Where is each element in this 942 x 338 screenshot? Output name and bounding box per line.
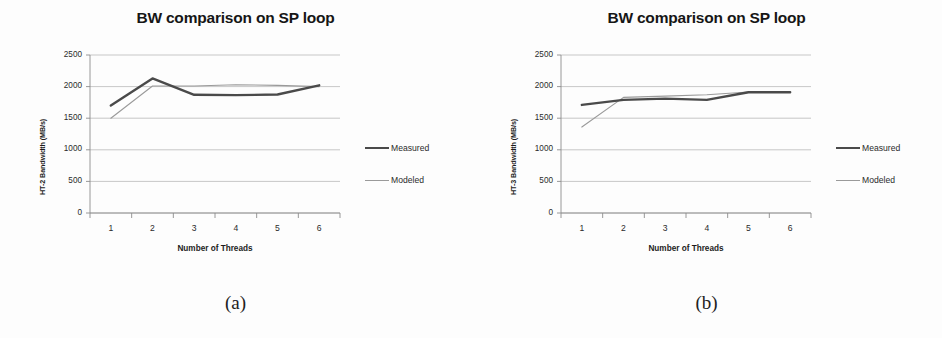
x-tick-label: 1 xyxy=(101,223,121,233)
series-line-modeled xyxy=(111,85,319,118)
y-tick-label: 1500 xyxy=(519,113,553,122)
figure-caption-b: (b) xyxy=(471,292,942,314)
y-tick-label: 0 xyxy=(519,208,553,217)
y-tick-label: 1000 xyxy=(48,144,82,153)
y-tick-label: 2000 xyxy=(48,81,82,90)
x-tick-label: 5 xyxy=(739,223,759,233)
y-tick-label: 1000 xyxy=(519,144,553,153)
chart-a: 05001000150020002500123456Number of Thre… xyxy=(0,0,471,338)
legend-item-modeled[interactable]: Modeled xyxy=(836,171,900,189)
series-line-measured xyxy=(582,92,790,105)
y-tick-label: 500 xyxy=(48,176,82,185)
legend-item-measured[interactable]: Measured xyxy=(836,139,900,157)
series-line-measured xyxy=(111,78,319,105)
figure-panel-a: BW comparison on SP loop 050010001500200… xyxy=(0,0,471,338)
legend-swatch-icon xyxy=(836,180,860,181)
figure-caption-a: (a) xyxy=(0,292,471,314)
x-tick-label: 4 xyxy=(697,223,717,233)
x-tick-label: 6 xyxy=(780,223,800,233)
x-tick-label: 2 xyxy=(614,223,634,233)
x-tick-label: 6 xyxy=(309,223,329,233)
y-tick-label: 500 xyxy=(519,176,553,185)
chart-legend: MeasuredModeled xyxy=(365,139,429,203)
legend-item-modeled[interactable]: Modeled xyxy=(365,171,429,189)
chart-b: 05001000150020002500123456Number of Thre… xyxy=(471,0,942,338)
x-axis-label: Number of Threads xyxy=(561,244,811,253)
x-axis-label: Number of Threads xyxy=(90,244,340,253)
y-tick-label: 1500 xyxy=(48,113,82,122)
y-axis-label: HT-3 Bandwidth (MB/s) xyxy=(509,119,518,195)
legend-swatch-icon xyxy=(836,147,860,149)
chart-legend: MeasuredModeled xyxy=(836,139,900,203)
legend-label: Measured xyxy=(862,143,900,153)
x-tick-label: 5 xyxy=(268,223,288,233)
y-tick-label: 0 xyxy=(48,208,82,217)
x-tick-label: 3 xyxy=(184,223,204,233)
legend-item-measured[interactable]: Measured xyxy=(365,139,429,157)
legend-label: Modeled xyxy=(862,175,895,185)
figure-panel-row: BW comparison on SP loop 050010001500200… xyxy=(0,0,942,338)
y-axis-label: HT-2 Bandwidth (MB/s) xyxy=(38,119,47,195)
legend-swatch-icon xyxy=(365,147,389,149)
x-tick-label: 4 xyxy=(226,223,246,233)
legend-label: Measured xyxy=(391,143,429,153)
y-tick-label: 2500 xyxy=(519,50,553,59)
series-line-modeled xyxy=(582,92,790,127)
figure-panel-b: BW comparison on SP loop 050010001500200… xyxy=(471,0,942,338)
x-tick-label: 3 xyxy=(655,223,675,233)
x-tick-label: 2 xyxy=(143,223,163,233)
legend-label: Modeled xyxy=(391,175,424,185)
y-tick-label: 2500 xyxy=(48,50,82,59)
legend-swatch-icon xyxy=(365,180,389,181)
y-tick-label: 2000 xyxy=(519,81,553,90)
x-tick-label: 1 xyxy=(572,223,592,233)
